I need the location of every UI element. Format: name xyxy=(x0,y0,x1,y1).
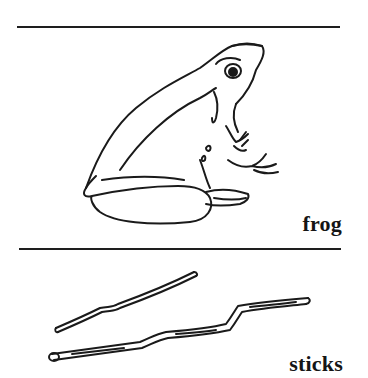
frog-illustration-icon xyxy=(0,0,368,378)
frog-label: frog xyxy=(303,213,343,235)
sticks-label: sticks xyxy=(289,353,343,375)
middle-divider xyxy=(19,248,341,250)
top-divider xyxy=(17,26,340,28)
sticks-illustration-icon xyxy=(0,0,368,378)
